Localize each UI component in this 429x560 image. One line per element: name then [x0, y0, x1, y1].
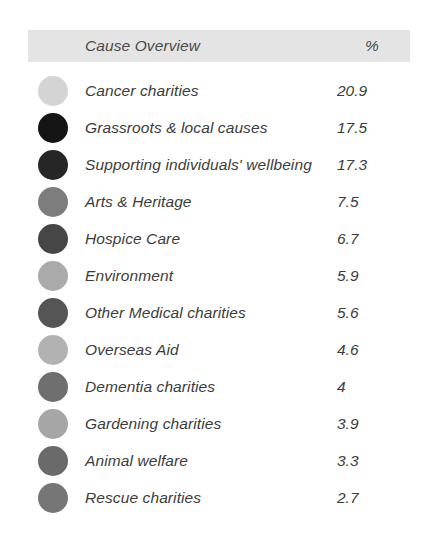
row-value: 17.5 [337, 119, 367, 137]
color-swatch-icon [38, 483, 68, 513]
row-label: Cancer charities [85, 82, 199, 100]
row-label: Arts & Heritage [85, 193, 192, 211]
color-swatch-icon [38, 150, 68, 180]
color-swatch-icon [38, 76, 68, 106]
color-swatch-icon [38, 261, 68, 291]
row-label: Supporting individuals' wellbeing [85, 156, 312, 174]
cause-overview-legend-table: Cause Overview % Cancer charities20.9Gra… [0, 0, 429, 560]
column-header-percent: % [365, 37, 379, 55]
table-row: Rescue charities2.7 [0, 479, 429, 516]
row-label: Environment [85, 267, 173, 285]
row-label: Rescue charities [85, 489, 201, 507]
row-value: 4 [337, 378, 346, 396]
color-swatch-icon [38, 446, 68, 476]
row-label: Grassroots & local causes [85, 119, 268, 137]
row-label: Animal welfare [85, 452, 188, 470]
row-value: 7.5 [337, 193, 359, 211]
color-swatch-icon [38, 113, 68, 143]
row-value: 3.9 [337, 415, 359, 433]
color-swatch-icon [38, 298, 68, 328]
row-label: Overseas Aid [85, 341, 179, 359]
table-row: Dementia charities4 [0, 368, 429, 405]
table-row: Overseas Aid4.6 [0, 331, 429, 368]
table-row: Hospice Care6.7 [0, 220, 429, 257]
color-swatch-icon [38, 335, 68, 365]
table-row: Gardening charities3.9 [0, 405, 429, 442]
color-swatch-icon [38, 409, 68, 439]
row-value: 20.9 [337, 82, 367, 100]
row-value: 17.3 [337, 156, 367, 174]
row-label: Other Medical charities [85, 304, 246, 322]
table-row: Cancer charities20.9 [0, 72, 429, 109]
table-row: Other Medical charities5.6 [0, 294, 429, 331]
row-value: 5.9 [337, 267, 359, 285]
table-row: Arts & Heritage7.5 [0, 183, 429, 220]
table-row: Grassroots & local causes17.5 [0, 109, 429, 146]
table-row: Animal welfare3.3 [0, 442, 429, 479]
color-swatch-icon [38, 187, 68, 217]
row-label: Gardening charities [85, 415, 221, 433]
row-value: 5.6 [337, 304, 359, 322]
table-row: Supporting individuals' wellbeing17.3 [0, 146, 429, 183]
color-swatch-icon [38, 372, 68, 402]
row-value: 4.6 [337, 341, 359, 359]
row-label: Hospice Care [85, 230, 180, 248]
table-row: Environment5.9 [0, 257, 429, 294]
table-body: Cancer charities20.9Grassroots & local c… [0, 72, 429, 516]
row-value: 3.3 [337, 452, 359, 470]
column-header-cause-overview: Cause Overview [85, 37, 200, 55]
row-value: 6.7 [337, 230, 359, 248]
row-value: 2.7 [337, 489, 359, 507]
color-swatch-icon [38, 224, 68, 254]
row-label: Dementia charities [85, 378, 215, 396]
table-header-row: Cause Overview % [28, 30, 410, 62]
